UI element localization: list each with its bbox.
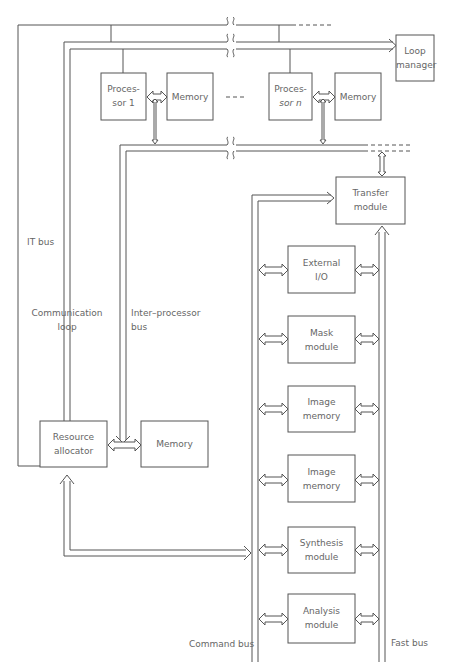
processor-1-label-line2: sor 1 xyxy=(101,96,146,110)
resource-memory-label: Memory xyxy=(141,437,208,451)
processor-n-label-line2: sor n xyxy=(269,96,312,110)
resource-allocator-label: Resource allocator xyxy=(40,430,107,458)
communication-loop-label-line1: Communication xyxy=(30,306,104,320)
image-memory-1-label: Image memory xyxy=(288,395,355,423)
external-io-label-line1: External xyxy=(288,256,355,270)
memory-1-label: Memory xyxy=(167,90,213,104)
mask-module-label: Mask module xyxy=(288,326,355,354)
loop-manager-label: Loop manager xyxy=(396,44,434,72)
image-memory-1-label-line1: Image xyxy=(288,395,355,409)
mask-module-label-line2: module xyxy=(288,340,355,354)
allocator-command-bus-link xyxy=(60,475,251,560)
synthesis-module-label: Synthesis module xyxy=(288,536,355,564)
processor-n-label: Proces- sor n xyxy=(269,82,312,110)
analysis-module-label-line2: module xyxy=(288,618,355,632)
image-memory-1-label-line2: memory xyxy=(288,409,355,423)
processor-n-memory-arrow xyxy=(313,91,335,144)
fast-bus-module-arrows xyxy=(355,264,379,625)
resource-allocator-label-line1: Resource xyxy=(40,430,107,444)
image-memory-2-label: Image memory xyxy=(288,465,355,493)
mask-module-label-line1: Mask xyxy=(288,326,355,340)
communication-loop-label-line2: loop xyxy=(30,320,104,334)
synthesis-module-label-line2: module xyxy=(288,550,355,564)
processor-1-label: Proces- sor 1 xyxy=(101,82,146,110)
synthesis-module-label-line1: Synthesis xyxy=(288,536,355,550)
system-block-diagram xyxy=(0,0,453,668)
command-bus-module-arrows xyxy=(259,264,288,625)
image-memory-2-label-line2: memory xyxy=(288,479,355,493)
transfer-module-label-line2: module xyxy=(336,200,405,214)
inter-processor-bus-label-line2: bus xyxy=(131,320,200,334)
external-io-label: External I/O xyxy=(288,256,355,284)
inter-processor-bus-label-line1: Inter–processor xyxy=(131,306,200,320)
fast-bus-label: Fast bus xyxy=(391,636,428,650)
loop-manager-label-line1: Loop xyxy=(396,44,434,58)
fast-bus xyxy=(375,226,389,662)
memory-n-label: Memory xyxy=(335,90,381,104)
analysis-module-label: Analysis module xyxy=(288,604,355,632)
processor-1-label-line1: Proces- xyxy=(101,82,146,96)
transfer-module-label-line1: Transfer xyxy=(336,186,405,200)
transfer-module-label: Transfer module xyxy=(336,186,405,214)
communication-loop-label: Communication loop xyxy=(30,306,104,334)
command-bus-label: Command bus xyxy=(189,637,254,651)
external-io-label-line2: I/O xyxy=(288,270,355,284)
resource-allocator-label-line2: allocator xyxy=(40,444,107,458)
loop-manager-label-line2: manager xyxy=(396,58,434,72)
inter-processor-bus-label: Inter–processor bus xyxy=(131,306,200,334)
it-bus-label: IT bus xyxy=(27,235,54,249)
processor-n-label-line1: Proces- xyxy=(269,82,312,96)
processor-1-memory-arrow xyxy=(147,91,167,144)
image-memory-2-label-line1: Image xyxy=(288,465,355,479)
analysis-module-label-line1: Analysis xyxy=(288,604,355,618)
transfer-inter-bus-arrow xyxy=(378,152,386,176)
